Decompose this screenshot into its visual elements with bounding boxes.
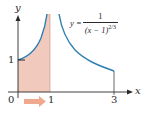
y-tick-1: 1	[8, 55, 14, 65]
x-axis-arrowhead	[127, 90, 133, 95]
function-equation: y = 1 (x − 1)2/3	[70, 11, 116, 35]
x-axis-label: x	[135, 86, 141, 96]
equation-fraction: 1 (x − 1)2/3	[85, 11, 116, 35]
x-tick-0: 0	[8, 95, 14, 105]
equation-lhs: y =	[70, 18, 82, 28]
denominator-exponent: 2/3	[108, 24, 116, 30]
right-arrow-icon	[24, 96, 46, 107]
equation-numerator: 1	[83, 11, 118, 23]
denominator-base: (x − 1)	[85, 25, 109, 35]
y-axis-label: y	[15, 3, 21, 13]
y-axis-arrowhead	[16, 15, 21, 21]
equation-denominator: (x − 1)2/3	[85, 23, 116, 35]
x-tick-1: 1	[48, 95, 54, 105]
x-tick-3: 3	[111, 95, 117, 105]
